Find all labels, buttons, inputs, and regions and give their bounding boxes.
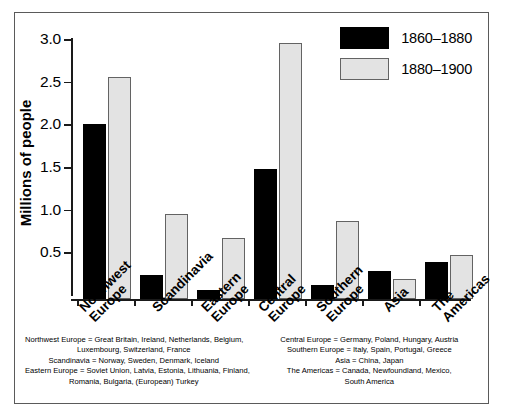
legend-swatch-1860-1880 [340,27,389,49]
footnote-column-left: Northwest Europe = Great Britain, Irelan… [25,335,242,397]
footnote-line-right-3: The Americas = Canada, Newfoundland, Mex… [261,366,478,376]
footnote-line-right-1: Southern Europe = Italy, Spain, Portugal… [261,345,478,355]
y-tick-label-0.5: 0.5 [40,243,61,261]
chart-legend: 1860–1880 1880–1900 [340,27,472,89]
legend-swatch-1880-1900 [340,58,389,80]
footnote-line-right-0: Central Europe = Germany, Poland, Hungar… [261,335,478,345]
footnote-line-left-1: Luxembourg, Switzerland, France [25,345,242,355]
y-tick-label-1.0: 1.0 [40,201,61,219]
y-tick-3.0 [64,39,72,41]
y-tick-1.5 [64,167,72,169]
legend-entry-0: 1860–1880 [340,27,472,49]
bar [83,124,106,299]
footnote-line-left-4: Romania, Bulgaria, (European) Turkey [25,377,242,387]
y-axis-label: Millions of people [17,100,34,227]
footnote-line-left-3: Eastern Europe = Soviet Union, Latvia, E… [25,366,242,376]
y-tick-label-2.0: 2.0 [40,115,61,133]
bar [279,43,302,299]
y-tick-2.0 [64,124,72,126]
footnote-line-left-0: Northwest Europe = Great Britain, Irelan… [25,335,242,345]
footnote-line-left-2: Scandinavia = Norway, Sweden, Denmark, I… [25,356,242,366]
footnote-line-right-4: South America [261,377,478,387]
chart-figure: 0.51.01.52.02.53.0 Millions of people No… [14,12,489,404]
footnote-region: Northwest Europe = Great Britain, Irelan… [15,335,488,397]
bar-group [130,43,187,299]
footnote-column-right: Central Europe = Germany, Poland, Hungar… [261,335,478,397]
bar-group [244,43,301,299]
legend-label-1880-1900: 1880–1900 [401,61,472,77]
y-tick-2.5 [64,82,72,84]
y-tick-label-3.0: 3.0 [40,30,61,48]
y-tick-1.0 [64,210,72,212]
y-tick-label-1.5: 1.5 [40,158,61,176]
bar [254,169,277,299]
legend-label-1860-1880: 1860–1880 [401,30,472,46]
legend-entry-1: 1880–1900 [340,58,472,80]
y-tick-0.5 [64,252,72,254]
footnote-line-right-2: Asia = China, Japan [261,356,478,366]
y-tick-label-2.5: 2.5 [40,73,61,91]
